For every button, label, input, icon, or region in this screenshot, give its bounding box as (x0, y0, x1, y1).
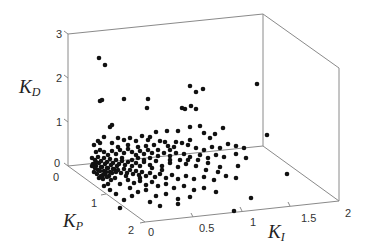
data-point (130, 150, 135, 155)
data-point (165, 129, 170, 134)
data-point (92, 143, 97, 148)
data-point (166, 144, 171, 149)
data-point (170, 173, 175, 178)
data-point (160, 168, 165, 173)
data-point (128, 136, 133, 141)
data-point (152, 143, 157, 148)
data-point (106, 182, 111, 187)
data-point (208, 136, 213, 141)
data-point (99, 174, 104, 179)
data-point (176, 197, 181, 202)
right-bottom-edge (263, 146, 339, 201)
data-point (154, 130, 159, 135)
data-point (114, 192, 119, 197)
data-point (110, 149, 115, 154)
data-point (158, 139, 163, 144)
data-point (134, 161, 139, 166)
data-point (164, 182, 169, 187)
data-point (138, 149, 143, 154)
data-point (140, 134, 145, 139)
data-point (176, 202, 181, 207)
data-point (138, 176, 143, 181)
data-point (206, 156, 211, 161)
data-point (128, 168, 133, 173)
data-point (232, 209, 237, 214)
data-point (192, 188, 197, 193)
data-point (142, 158, 147, 163)
data-point (100, 98, 105, 103)
data-point (214, 190, 219, 195)
data-point (164, 192, 169, 197)
data-point (134, 139, 139, 144)
data-point (154, 194, 159, 199)
data-point (138, 164, 143, 169)
data-point (194, 164, 199, 169)
data-point (136, 156, 141, 161)
data-point (194, 146, 199, 151)
data-point (226, 142, 231, 147)
data-point (103, 63, 108, 68)
data-point (214, 153, 219, 158)
data-point (96, 155, 101, 160)
data-point (202, 131, 207, 136)
data-point (198, 124, 203, 129)
data-point (140, 170, 145, 175)
data-point (172, 145, 177, 150)
x-axis-label: KI (267, 221, 286, 244)
data-point (98, 148, 103, 153)
data-point (186, 143, 191, 148)
data-point (174, 140, 179, 145)
data-point (99, 165, 104, 170)
data-point (184, 174, 189, 179)
data-point (146, 148, 151, 153)
data-point (122, 151, 127, 156)
data-point (144, 144, 149, 149)
data-point (98, 169, 103, 174)
data-point (110, 123, 115, 128)
data-point (164, 176, 169, 181)
data-point (168, 154, 173, 159)
data-point (158, 172, 163, 177)
data-point (224, 174, 229, 179)
data-point (132, 181, 137, 186)
data-point (94, 160, 99, 165)
data-point (162, 151, 167, 156)
data-point (202, 148, 207, 153)
data-point (145, 106, 150, 111)
data-point (158, 204, 163, 209)
data-point (168, 148, 173, 153)
kp-tick-1: 1 (91, 197, 97, 209)
top-back-edge (68, 14, 263, 34)
data-point (210, 145, 215, 150)
data-point (234, 176, 239, 181)
data-point (188, 125, 193, 130)
data-point (106, 153, 111, 158)
data-point (105, 166, 110, 171)
data-point (119, 171, 124, 176)
data-point (249, 196, 254, 201)
data-point (103, 172, 108, 177)
data-point (124, 174, 129, 179)
scatter-3d-plot: 3 2 1 0 0 1 2 0 0.5 1 1.5 2 KD KP KI (0, 0, 371, 250)
data-point (176, 129, 181, 134)
data-point (213, 132, 218, 137)
data-point (109, 163, 114, 168)
data-point (154, 159, 159, 164)
data-point (265, 133, 270, 138)
data-point (128, 186, 133, 191)
data-point (184, 162, 189, 167)
data-point (204, 168, 209, 173)
data-point (122, 97, 127, 102)
data-point (108, 157, 113, 162)
data-point (130, 164, 135, 169)
data-point (234, 144, 239, 149)
data-point (120, 156, 125, 161)
data-point (212, 178, 217, 183)
data-point (97, 56, 102, 61)
data-point (150, 166, 155, 171)
data-point (118, 182, 123, 187)
data-point (198, 153, 203, 158)
data-point (174, 151, 179, 156)
data-point (102, 150, 107, 155)
data-point (178, 158, 183, 163)
